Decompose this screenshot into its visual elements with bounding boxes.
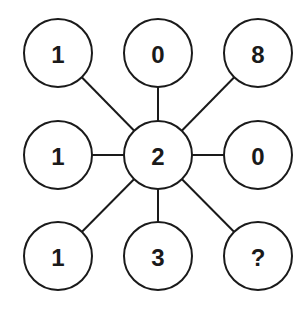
center-node: 2 xyxy=(124,121,192,189)
node-value: 0 xyxy=(151,41,164,68)
unknown-value: ? xyxy=(251,244,266,271)
node-value: 1 xyxy=(51,41,64,68)
node-value: 0 xyxy=(251,143,264,170)
node-value: 8 xyxy=(251,41,264,68)
number-puzzle-diagram: 2 1081013? xyxy=(0,0,308,312)
node-bottom-right: ? xyxy=(224,222,292,290)
nodes: 2 1081013? xyxy=(24,19,292,290)
node-top-center: 0 xyxy=(124,19,192,87)
node-bottom-left: 1 xyxy=(24,222,92,290)
node-mid-right: 0 xyxy=(224,121,292,189)
node-bottom-center: 3 xyxy=(124,222,192,290)
center-value: 2 xyxy=(151,143,164,170)
node-mid-left: 1 xyxy=(24,121,92,189)
node-top-left: 1 xyxy=(24,19,92,87)
node-value: 3 xyxy=(151,244,164,271)
node-value: 1 xyxy=(51,143,64,170)
node-top-right: 8 xyxy=(224,19,292,87)
node-value: 1 xyxy=(51,244,64,271)
